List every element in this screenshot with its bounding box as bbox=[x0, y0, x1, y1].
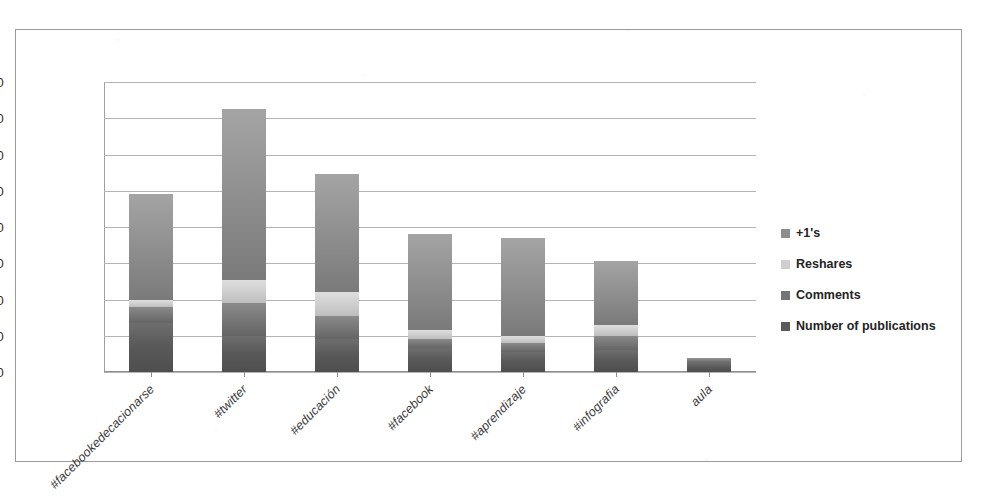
bar-segment[interactable] bbox=[501, 336, 545, 343]
y-axis-tick-label: 40 bbox=[0, 292, 4, 307]
y-axis-tick-label: 140 bbox=[0, 111, 4, 126]
y-axis-tick-label: 160 bbox=[0, 75, 4, 90]
stacked-bar[interactable] bbox=[129, 194, 173, 372]
stacked-bar[interactable] bbox=[222, 109, 266, 372]
bar-slot bbox=[104, 82, 197, 372]
bar-segment[interactable] bbox=[315, 174, 359, 292]
y-axis-tick-label: 60 bbox=[0, 256, 4, 271]
bar-slot bbox=[570, 82, 663, 372]
stacked-bar[interactable] bbox=[315, 174, 359, 372]
bar-segment[interactable] bbox=[129, 307, 173, 323]
legend-swatch-comments bbox=[781, 291, 790, 300]
x-axis-tick-label: #aprendizaje bbox=[468, 382, 529, 443]
legend-item[interactable]: Comments bbox=[781, 288, 961, 302]
bar-segment[interactable] bbox=[222, 280, 266, 304]
plot-area: 020406080100120140160 bbox=[104, 82, 756, 372]
bar-segment[interactable] bbox=[594, 325, 638, 336]
bar-segment[interactable] bbox=[687, 363, 731, 372]
bar-segment[interactable] bbox=[501, 238, 545, 336]
legend-item-label: Reshares bbox=[796, 257, 852, 271]
x-axis-tick-label: aula bbox=[689, 382, 716, 409]
stacked-bar[interactable] bbox=[501, 238, 545, 372]
bar-slot bbox=[663, 82, 756, 372]
legend-item-label: Comments bbox=[796, 288, 861, 302]
bar-segment[interactable] bbox=[594, 350, 638, 372]
bar-segment[interactable] bbox=[222, 109, 266, 279]
bar-segment[interactable] bbox=[315, 339, 359, 372]
bar-segment[interactable] bbox=[501, 343, 545, 352]
bar-segment[interactable] bbox=[594, 261, 638, 324]
bar-segment[interactable] bbox=[594, 336, 638, 351]
legend-item-label: Number of publications bbox=[796, 319, 936, 333]
stacked-bar[interactable] bbox=[594, 261, 638, 372]
legend-item-label: +1's bbox=[796, 226, 820, 240]
bar-slot bbox=[197, 82, 290, 372]
bar-segment[interactable] bbox=[408, 348, 452, 372]
bar-slot bbox=[383, 82, 476, 372]
bar-segment[interactable] bbox=[222, 303, 266, 336]
x-axis-tick-labels: #facebookedecacionarse#twitter#educación… bbox=[104, 374, 756, 494]
bar-segment[interactable] bbox=[501, 352, 545, 372]
bar-segment[interactable] bbox=[408, 234, 452, 330]
bar-segment[interactable] bbox=[408, 330, 452, 339]
bar-segment[interactable] bbox=[222, 336, 266, 372]
bar-segment[interactable] bbox=[315, 292, 359, 316]
legend-swatch-reshares bbox=[781, 260, 790, 269]
legend-swatch-plus-ones bbox=[781, 229, 790, 238]
bar-segment[interactable] bbox=[408, 339, 452, 348]
bar-segment[interactable] bbox=[129, 300, 173, 307]
x-axis-tick-label: #twitter bbox=[211, 382, 250, 421]
x-axis-tick-label: #infografia bbox=[570, 382, 622, 434]
bar-segment[interactable] bbox=[129, 194, 173, 299]
chart-legend: +1'sResharesCommentsNumber of publicatio… bbox=[781, 226, 961, 350]
bar-segment[interactable] bbox=[315, 316, 359, 340]
y-axis-tick-label: 20 bbox=[0, 328, 4, 343]
legend-item[interactable]: Number of publications bbox=[781, 319, 961, 333]
y-axis-tick-label: 100 bbox=[0, 183, 4, 198]
stacked-bar[interactable] bbox=[687, 358, 731, 373]
x-axis-tick-label: #facebook bbox=[385, 382, 436, 433]
stacked-bar[interactable] bbox=[408, 234, 452, 372]
y-axis-tick-label: 0 bbox=[0, 365, 4, 380]
bar-slot bbox=[477, 82, 570, 372]
legend-item[interactable]: Reshares bbox=[781, 257, 961, 271]
legend-swatch-publications bbox=[781, 322, 790, 331]
y-axis-tick-label: 80 bbox=[0, 220, 4, 235]
x-axis-tick-label: #educación bbox=[287, 382, 343, 438]
bar-segment[interactable] bbox=[129, 323, 173, 372]
bar-slot bbox=[290, 82, 383, 372]
legend-item[interactable]: +1's bbox=[781, 226, 961, 240]
chart-frame: 020406080100120140160 #facebookedecacion… bbox=[15, 29, 962, 462]
x-axis-tick-label: #facebookedecacionarse bbox=[47, 382, 157, 492]
y-axis-tick-label: 120 bbox=[0, 147, 4, 162]
